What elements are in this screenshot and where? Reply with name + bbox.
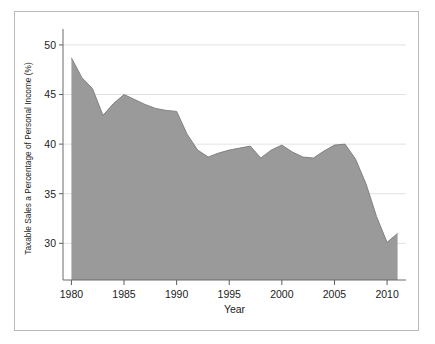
x-tick-label: 1990 bbox=[165, 288, 189, 300]
chart-figure: 3035404550 1980198519901995200020052010 … bbox=[14, 11, 419, 331]
y-tick-label: 50 bbox=[44, 39, 56, 51]
chart-plot-area: 3035404550 1980198519901995200020052010 … bbox=[15, 12, 420, 332]
y-tick-label: 35 bbox=[44, 188, 56, 200]
y-tick-label: 45 bbox=[44, 88, 56, 100]
y-axis-title: Taxable Sales a Percentage of Personal I… bbox=[23, 62, 33, 255]
x-tick-label: 1995 bbox=[218, 288, 242, 300]
area-chart-svg: 3035404550 1980198519901995200020052010 … bbox=[15, 12, 420, 332]
y-tick-label: 40 bbox=[44, 138, 56, 150]
data-area-path bbox=[71, 58, 397, 280]
x-axis-title: Year bbox=[224, 303, 246, 315]
x-axis-ticks: 1980198519901995200020052010 bbox=[60, 280, 399, 300]
x-tick-label: 2005 bbox=[323, 288, 347, 300]
x-tick-label: 1980 bbox=[60, 288, 84, 300]
x-tick-label: 2010 bbox=[375, 288, 399, 300]
x-tick-label: 2000 bbox=[270, 288, 294, 300]
y-axis-ticks: 3035404550 bbox=[44, 39, 63, 249]
x-tick-label: 1985 bbox=[112, 288, 136, 300]
y-tick-label: 30 bbox=[44, 237, 56, 249]
data-area-group bbox=[71, 58, 397, 280]
